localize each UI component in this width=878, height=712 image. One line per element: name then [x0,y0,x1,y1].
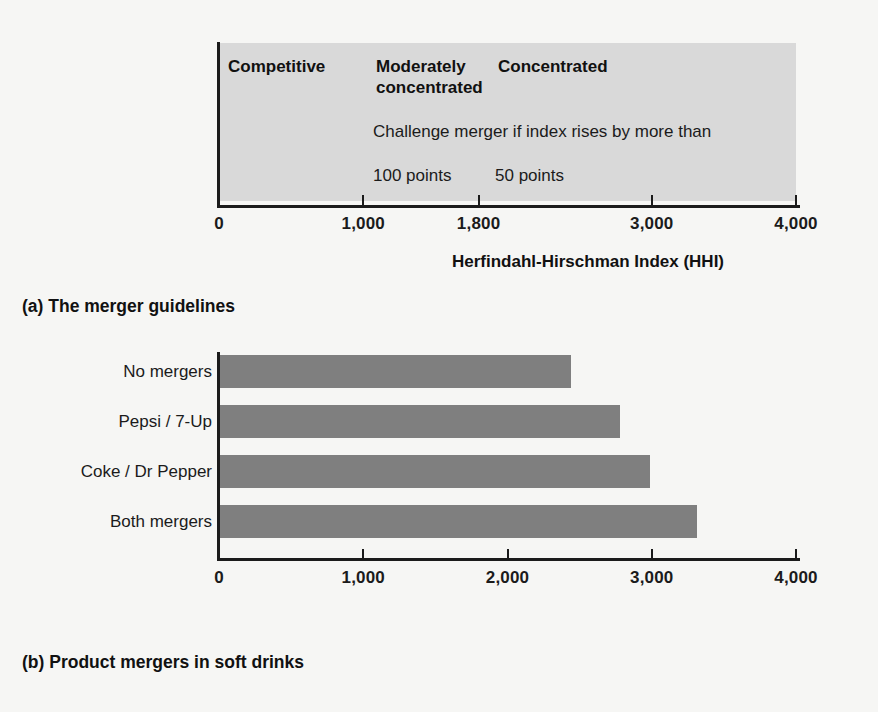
panel-a-tick-mark [218,195,220,207]
bar-pepsi-7-up [220,405,620,438]
bar-label-no-mergers: No mergers [123,362,212,382]
panel-b-tick-mark [507,549,509,561]
figure-merger-guidelines: Competitive Moderately concentrated Conc… [0,0,878,712]
bar-no-mergers [220,355,571,388]
panel-a-tick-label: 3,000 [630,214,674,234]
panel-b-tick-mark [362,549,364,561]
panel-b-tick-label: 4,000 [774,568,818,588]
bar-label-coke-dr-pepper: Coke / Dr Pepper [81,462,212,482]
panel-a-tick-mark [362,195,364,207]
panel-b-x-axis-line [217,558,800,561]
panel-b-tick-label: 2,000 [486,568,530,588]
panel-a-tick-label: 4,000 [774,214,818,234]
panel-a-y-axis-line [217,42,220,207]
zone-label-moderately-concentrated: Moderately concentrated [376,57,483,98]
panel-a-merger-guidelines: Competitive Moderately concentrated Conc… [0,0,878,310]
panel-a-tick-label: 1,800 [457,214,501,234]
zone-label-competitive: Competitive [228,57,325,78]
panel-a-tick-label: 0 [214,214,224,234]
bar-label-pepsi-7-up: Pepsi / 7-Up [118,412,212,432]
bar-coke-dr-pepper [220,455,650,488]
panel-b-tick-mark [651,549,653,561]
zone-label-concentrated: Concentrated [498,57,608,78]
threshold-concentrated: 50 points [495,166,564,186]
threshold-moderately-concentrated: 100 points [373,166,451,186]
challenge-merger-note: Challenge merger if index rises by more … [373,122,711,142]
panel-a-tick-mark [478,195,480,207]
panel-a-tick-mark [651,195,653,207]
panel-b-tick-mark [795,549,797,561]
panel-b-tick-mark [218,549,220,561]
bar-both-mergers [220,505,697,538]
panel-b-tick-label: 0 [214,568,224,588]
panel-b-tick-label: 3,000 [630,568,674,588]
panel-a-x-axis-title: Herfindahl-Hirschman Index (HHI) [452,252,724,272]
panel-a-tick-mark [795,195,797,207]
panel-a-caption: (a) The merger guidelines [22,296,235,317]
panel-b-caption: (b) Product mergers in soft drinks [22,652,304,673]
panel-b-tick-label: 1,000 [341,568,385,588]
panel-a-tick-label: 1,000 [341,214,385,234]
panel-a-x-axis-line [217,205,800,208]
bar-label-both-mergers: Both mergers [110,512,212,532]
